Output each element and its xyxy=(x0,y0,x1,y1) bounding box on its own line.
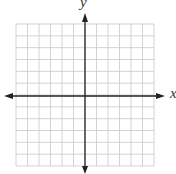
coordinate-plane xyxy=(0,0,176,174)
y-axis-label: y xyxy=(80,0,87,11)
arrow-left-icon xyxy=(4,93,13,99)
arrow-up-icon xyxy=(82,13,88,22)
arrow-down-icon xyxy=(82,166,88,174)
x-axis-label: x xyxy=(170,85,176,102)
arrow-right-icon xyxy=(156,93,165,99)
